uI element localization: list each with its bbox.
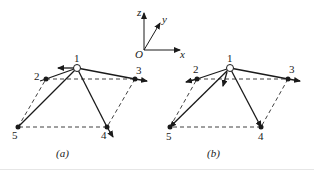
node-4 xyxy=(259,125,264,130)
node-label-4: 4 xyxy=(101,129,107,141)
node-label-3: 3 xyxy=(136,64,142,76)
figure-a: 1 2 3 4 5 (a) xyxy=(12,52,147,160)
node-2 xyxy=(44,77,49,82)
member-1-3 xyxy=(77,68,135,79)
node-label-5: 5 xyxy=(166,130,172,142)
caption-a: (a) xyxy=(56,147,69,160)
node-label-2: 2 xyxy=(34,70,40,82)
node-label-1: 1 xyxy=(74,52,80,64)
caption-b: (b) xyxy=(207,147,220,160)
coordinate-axes: z y x O xyxy=(135,6,185,60)
node-label-1: 1 xyxy=(227,52,233,64)
node-label-3: 3 xyxy=(289,63,295,75)
y-axis-label: y xyxy=(161,13,167,25)
dashed-edge-3-4 xyxy=(107,79,135,127)
node-label-4: 4 xyxy=(258,130,264,142)
x-axis-label: x xyxy=(179,48,185,60)
member-1-5 xyxy=(18,68,77,127)
node-1-open xyxy=(227,65,234,72)
node-5 xyxy=(168,125,173,130)
member-1-5 xyxy=(170,68,230,127)
node-2 xyxy=(195,77,200,82)
member-1-4 xyxy=(77,68,107,127)
node-label-5: 5 xyxy=(12,129,18,141)
y-axis xyxy=(144,23,160,50)
dashed-edge-3-4 xyxy=(261,79,288,127)
z-axis-label: z xyxy=(136,6,142,18)
dashed-edge-5-2 xyxy=(170,79,197,127)
node-3 xyxy=(286,77,291,82)
node-3 xyxy=(133,77,138,82)
figure-b: 1 2 3 4 5 (b) xyxy=(166,52,300,160)
truss-diagram: z y x O 1 2 3 4 5 (a) xyxy=(0,0,314,172)
divider xyxy=(0,169,314,170)
origin-label: O xyxy=(135,48,143,60)
member-1-4 xyxy=(230,68,261,127)
node-1-open xyxy=(74,65,81,72)
node-label-2: 2 xyxy=(193,63,199,75)
member-1-3 xyxy=(230,68,288,79)
